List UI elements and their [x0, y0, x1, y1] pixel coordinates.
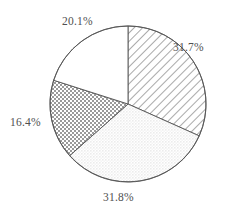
pie-label-20-1: 20.1%: [62, 16, 93, 28]
pie-label-16-4: 16.4%: [10, 117, 41, 129]
pie-label-31-8: 31.8%: [103, 192, 134, 204]
pie-chart-canvas: [0, 0, 232, 215]
pie-label-31-7: 31.7%: [173, 42, 204, 54]
pie-chart-figure: 31.7% 31.8% 16.4% 20.1%: [0, 0, 232, 215]
